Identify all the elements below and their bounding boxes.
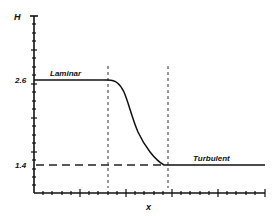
x-axis-label: x	[145, 202, 152, 212]
y-axis-label: H	[14, 12, 21, 22]
tick-label-1-4: 1.4	[15, 161, 27, 170]
laminar-label: Laminar	[50, 69, 82, 78]
tick-label-2-6: 2.6	[14, 76, 27, 85]
turbulent-label: Turbulent	[193, 154, 230, 163]
chart: H 2.6 1.4 Laminar Turbulent x	[0, 0, 277, 217]
h-curve	[34, 80, 265, 165]
